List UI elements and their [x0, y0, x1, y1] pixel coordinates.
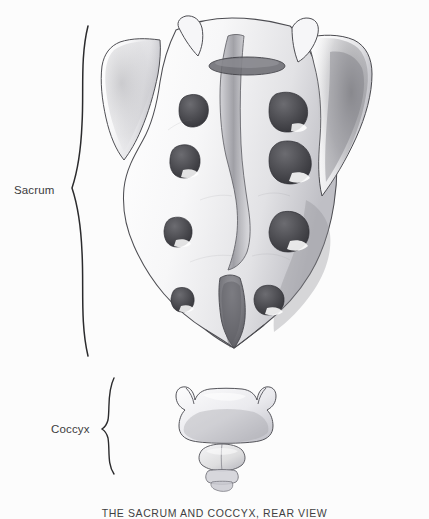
coccyx-group [176, 387, 276, 492]
foramen-left-1 [179, 94, 208, 127]
coccyx-brace [102, 378, 114, 474]
sacrum-label: Sacrum [14, 184, 55, 196]
sacrum-brace [72, 26, 88, 356]
figure-caption: THE SACRUM AND COCCYX, REAR VIEW [0, 507, 429, 519]
sacral-canal-highlight [215, 58, 279, 68]
sacrum-group [101, 16, 372, 348]
coccyx-label: Coccyx [51, 423, 90, 435]
coccyx-segment-1-shading [184, 409, 269, 443]
coccyx-segment-4 [211, 481, 233, 491]
